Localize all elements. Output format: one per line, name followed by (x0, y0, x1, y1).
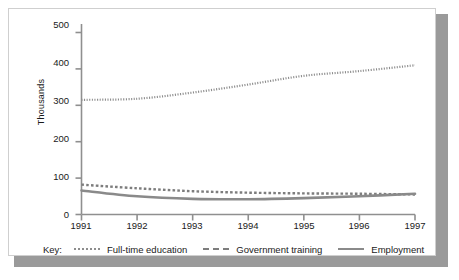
chart-series-layer (82, 65, 416, 199)
legend-item-full-time-education[interactable]: Full-time education (74, 244, 187, 255)
legend-swatch-dashed-icon (203, 246, 229, 252)
chart-svg (9, 9, 437, 257)
legend-label-government-training: Government training (236, 244, 322, 255)
legend-label-employment: Employment (371, 244, 424, 255)
chart-legend: Key: Full-time education Government trai… (43, 241, 423, 257)
legend-key-label: Key: (43, 244, 62, 255)
legend-swatch-dotted-icon (74, 246, 100, 252)
legend-item-employment[interactable]: Employment (338, 244, 424, 255)
x-axis-ticks (82, 215, 416, 221)
legend-swatch-solid-icon (338, 246, 364, 252)
chart-plot-area: Thousands 500 400 300 200 100 0 1991 199… (9, 9, 437, 257)
series-line-government-training (82, 185, 416, 195)
series-line-employment (82, 190, 416, 199)
chart-card: Thousands 500 400 300 200 100 0 1991 199… (8, 8, 436, 256)
screenshot-root: Thousands 500 400 300 200 100 0 1991 199… (0, 0, 459, 280)
legend-label-full-time-education: Full-time education (107, 244, 187, 255)
legend-item-government-training[interactable]: Government training (203, 244, 322, 255)
y-axis-ticks (76, 33, 82, 215)
series-line-full-time-education (82, 65, 416, 100)
